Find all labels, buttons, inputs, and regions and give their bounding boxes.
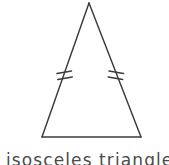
triangle-side-right-leg <box>89 3 141 137</box>
figure-caption-text: isosceles triangle <box>6 152 169 165</box>
congruence-tick-left <box>57 71 72 80</box>
figure-caption: isosceles triangle <box>0 152 169 165</box>
congruence-tick-right <box>108 71 123 80</box>
geometry-figure: isosceles triangle <box>0 0 169 165</box>
triangle-side-left-leg <box>42 3 89 137</box>
isosceles-triangle-drawing <box>0 0 169 165</box>
